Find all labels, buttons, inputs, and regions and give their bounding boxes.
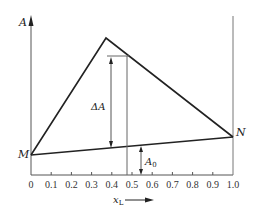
point-n-label: N — [235, 126, 246, 139]
svg-text:0.1: 0.1 — [45, 179, 58, 190]
baseline-mn — [31, 137, 233, 155]
y-axis-label: A — [18, 16, 27, 29]
delta-a-arrow-up-icon — [109, 57, 113, 64]
x-axis-label: xL — [113, 194, 124, 207]
a0-arrow-down-icon — [139, 169, 143, 175]
svg-text:0.9: 0.9 — [207, 179, 220, 190]
svg-text:0.4: 0.4 — [106, 179, 119, 190]
absorbance-diagram: A 0 0.1 0.2 0.3 0.4 0.5 0.6 0.7 0.8 0.9 … — [0, 0, 257, 210]
svg-text:0.6: 0.6 — [146, 179, 159, 190]
a0-label: A0 — [144, 156, 157, 169]
svg-text:0.3: 0.3 — [85, 179, 98, 190]
svg-text:0.8: 0.8 — [186, 179, 199, 190]
absorbance-curve — [31, 38, 233, 155]
svg-text:1.0: 1.0 — [227, 179, 240, 190]
x-direction-arrow-icon — [145, 198, 154, 203]
point-m-label: M — [17, 148, 30, 161]
a0-arrow-up-icon — [139, 146, 143, 152]
delta-a-label: ΔA — [90, 101, 105, 112]
y-axis-arrow-icon — [29, 15, 34, 26]
x-tick-labels: 0 0.1 0.2 0.3 0.4 0.5 0.6 0.7 0.8 0.9 1.… — [29, 179, 240, 190]
svg-text:0.7: 0.7 — [166, 179, 179, 190]
svg-text:0.5: 0.5 — [126, 179, 139, 190]
svg-text:0.2: 0.2 — [65, 179, 78, 190]
svg-text:0: 0 — [29, 179, 34, 190]
